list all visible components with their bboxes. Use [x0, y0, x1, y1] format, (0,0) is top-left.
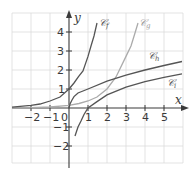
- x-tick-label: 3: [123, 111, 130, 124]
- curve-f-label: 𝒞f: [99, 17, 110, 30]
- y-tick-label: 3: [57, 45, 64, 58]
- function-graph: x y −2 −1 0 1 2 3 4 5 4 3 2 1 −1 −2 𝒞f 𝒞…: [0, 0, 192, 169]
- y-axis-label: y: [73, 11, 81, 25]
- x-tick-label: 4: [142, 111, 149, 124]
- x-axis-label: x: [175, 93, 182, 107]
- grid: [12, 13, 183, 163]
- x-axis-arrow-icon: [181, 105, 189, 111]
- x-tick-label: 5: [161, 111, 168, 124]
- y-tick-label: −2: [53, 140, 69, 153]
- x-tick-label: 1: [85, 111, 92, 124]
- x-tick-label: −2: [24, 111, 40, 124]
- curve-i-label: 𝒞i: [167, 77, 177, 90]
- curve-f: [12, 23, 97, 107]
- y-tick-label: 4: [57, 26, 64, 39]
- y-axis-arrow-icon: [66, 10, 72, 18]
- y-tick-label: −1: [53, 121, 69, 134]
- x-tick-label: 2: [104, 111, 111, 124]
- curve-h-label: 𝒞h: [148, 50, 160, 63]
- y-tick-label: 2: [57, 64, 64, 77]
